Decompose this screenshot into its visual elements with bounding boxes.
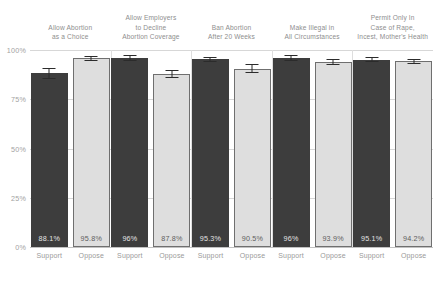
- facet-panel: Allow Employersto DeclineAbortion Covera…: [111, 0, 192, 284]
- error-bar-cap-top: [285, 55, 298, 56]
- error-bar-cap-bottom: [165, 77, 178, 78]
- x-tick-label: Oppose: [153, 252, 190, 268]
- panel-title-line: All Circumstances: [284, 32, 339, 42]
- bar-oppose[interactable]: 87.8%: [153, 74, 190, 247]
- panel-title-line: Allow Employers: [122, 13, 180, 23]
- x-tick-label: Oppose: [395, 252, 432, 268]
- bar-chart: 100%75%50%25%0% Allow Abortionas a Choic…: [0, 0, 435, 284]
- x-tick-label: Oppose: [234, 252, 271, 268]
- error-bar-cap-bottom: [365, 61, 378, 62]
- bar-oppose[interactable]: 93.9%: [315, 62, 352, 247]
- panel-title-line: Case of Rape,: [357, 23, 428, 33]
- panel-title-line: Allow Abortion: [48, 23, 92, 33]
- y-tick-label: 50%: [11, 144, 26, 153]
- panel-plot: 88.1%95.8%: [30, 50, 111, 247]
- x-tick-label: Oppose: [315, 252, 352, 268]
- y-axis: 100%75%50%25%0%: [0, 0, 30, 284]
- bar-slot: 96%: [111, 50, 148, 247]
- error-bar-cap-bottom: [246, 72, 259, 73]
- error-bar-cap-top: [165, 70, 178, 71]
- panel-title: Allow Employersto DeclineAbortion Covera…: [112, 4, 191, 44]
- panel-plot: 95.1%94.2%: [352, 50, 433, 247]
- bar-support[interactable]: 96%: [111, 58, 148, 247]
- x-tick-label: Support: [31, 252, 68, 268]
- y-tick-label: 25%: [11, 193, 26, 202]
- bar-value-label: 90.5%: [235, 234, 270, 243]
- bar-oppose[interactable]: 90.5%: [234, 69, 271, 247]
- bar-value-label: 95.3%: [193, 234, 228, 243]
- facet-panel: Permit Only InCase of Rape,Incest, Mothe…: [352, 0, 433, 284]
- facet-panel: Make Illegal inAll Circumstances96%93.9%…: [272, 0, 353, 284]
- panel-title-line: Permit Only In: [357, 13, 428, 23]
- error-bar-cap-bottom: [204, 61, 217, 62]
- bar-oppose[interactable]: 95.8%: [73, 58, 110, 247]
- x-tick-label: Support: [353, 252, 390, 268]
- bar-value-label: 95.1%: [354, 234, 389, 243]
- bar-group: 96%93.9%: [272, 50, 353, 247]
- bar-group: 88.1%95.8%: [30, 50, 111, 247]
- panel-title: Ban AbortionAfter 20 Weeks: [192, 4, 271, 44]
- bar-support[interactable]: 95.3%: [192, 59, 229, 247]
- plot-area: Allow Abortionas a Choice88.1%95.8%Suppo…: [30, 0, 433, 284]
- error-bar: [43, 68, 56, 80]
- bar-value-label: 87.8%: [154, 234, 189, 243]
- bar-slot: 95.1%: [353, 50, 390, 247]
- error-bar-cap-top: [43, 68, 56, 69]
- bar-support[interactable]: 88.1%: [31, 73, 68, 247]
- error-bar-cap-top: [85, 56, 98, 57]
- bar-slot: 95.8%: [73, 50, 110, 247]
- bar-value-label: 96%: [274, 234, 309, 243]
- x-axis-labels: SupportOppose: [111, 252, 192, 268]
- bar-slot: 90.5%: [234, 50, 271, 247]
- error-bar: [123, 55, 136, 61]
- error-bar: [204, 57, 217, 62]
- panel-title-line: Ban Abortion: [208, 23, 255, 33]
- bar-group: 95.3%90.5%: [191, 50, 272, 247]
- panel-title-line: as a Choice: [48, 32, 92, 42]
- error-bar: [85, 56, 98, 61]
- error-bar-cap-top: [204, 57, 217, 58]
- error-bar: [246, 64, 259, 73]
- x-axis-labels: SupportOppose: [272, 252, 353, 268]
- bar-value-label: 88.1%: [32, 234, 67, 243]
- bar-slot: 95.3%: [192, 50, 229, 247]
- error-bar-cap-top: [327, 59, 340, 60]
- bar-value-label: 93.9%: [316, 234, 351, 243]
- y-tick-label: 0%: [15, 243, 26, 252]
- error-bar: [165, 70, 178, 78]
- bar-slot: 88.1%: [31, 50, 68, 247]
- y-tick-label: 100%: [7, 46, 26, 55]
- error-bar-cap-bottom: [85, 60, 98, 61]
- error-bar-cap-bottom: [285, 60, 298, 61]
- panel-title: Allow Abortionas a Choice: [31, 4, 110, 44]
- bar-group: 95.1%94.2%: [352, 50, 433, 247]
- error-bar-cap-top: [123, 55, 136, 56]
- bar-value-label: 94.2%: [396, 234, 431, 243]
- error-bar-cap-top: [407, 59, 420, 60]
- error-bar: [407, 59, 420, 64]
- panel-plot: 95.3%90.5%: [191, 50, 272, 247]
- bar-support[interactable]: 96%: [273, 58, 310, 247]
- error-bar-cap-top: [246, 64, 259, 65]
- bar-value-label: 95.8%: [74, 234, 109, 243]
- x-tick-label: Oppose: [73, 252, 110, 268]
- panel-plot: 96%87.8%: [111, 50, 192, 247]
- error-bar: [327, 59, 340, 64]
- panel-title-line: Abortion Coverage: [122, 32, 180, 42]
- panel-title-line: Make Illegal in: [284, 23, 339, 33]
- x-axis-labels: SupportOppose: [352, 252, 433, 268]
- x-axis-labels: SupportOppose: [30, 252, 111, 268]
- y-tick-label: 75%: [11, 95, 26, 104]
- x-tick-label: Support: [111, 252, 148, 268]
- x-axis-labels: SupportOppose: [191, 252, 272, 268]
- bar-slot: 94.2%: [395, 50, 432, 247]
- bar-oppose[interactable]: 94.2%: [395, 61, 432, 247]
- error-bar: [365, 57, 378, 63]
- facet-panel: Ban AbortionAfter 20 Weeks95.3%90.5%Supp…: [191, 0, 272, 284]
- x-tick-label: Support: [273, 252, 310, 268]
- bar-value-label: 96%: [112, 234, 147, 243]
- error-bar-cap-bottom: [327, 64, 340, 65]
- panel-title-line: Incest, Mother's Health: [357, 32, 428, 42]
- bar-slot: 87.8%: [153, 50, 190, 247]
- bar-support[interactable]: 95.1%: [353, 60, 390, 247]
